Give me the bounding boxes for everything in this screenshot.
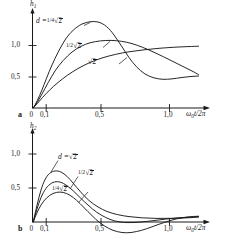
panel-b-x-axis-title-rest: t/2π bbox=[194, 223, 206, 232]
chart-panel-b: h2 1,0 0,5 0 0,1 0,5 1,0 ω0t/2π b d =√2 … bbox=[0, 122, 237, 244]
panel-b-curve-label-3-fraction: 1/4 bbox=[52, 185, 59, 191]
panel-b-y-axis-title-subscript: 2 bbox=[34, 125, 37, 131]
panel-a-curve-label-2: 1/2√2 bbox=[66, 42, 82, 50]
panel-a-ytick-label-05: 0,5 bbox=[11, 74, 20, 81]
panel-b-letter: b bbox=[18, 225, 22, 233]
panel-b-curve-label-2: 1/2√2 bbox=[78, 169, 94, 177]
panel-a-y-axis-title-subscript: 1 bbox=[34, 3, 37, 9]
panel-b-x-axis-title: ω0t/2π bbox=[186, 224, 205, 233]
panel-b-curve-label-3: 1/4√2 bbox=[52, 185, 68, 193]
panel-b-xtick-label-10: 1,0 bbox=[164, 226, 173, 233]
panel-a-curve-label-1-radical: √2 bbox=[54, 17, 63, 25]
panel-a-xtick-label-05: 0,5 bbox=[95, 112, 104, 119]
panel-a-curve-label-2-fraction: 1/2 bbox=[66, 42, 73, 48]
panel-a-curve-half-sqrt2 bbox=[33, 40, 198, 108]
panel-a-curve-label-1-prefix: d = bbox=[36, 16, 47, 25]
panel-b-curve-label-1-prefix: d = bbox=[58, 152, 69, 161]
panel-a-leader-3 bbox=[119, 58, 127, 65]
panel-b-curve-label-3-radical: √2 bbox=[59, 185, 68, 193]
panel-b-curve-sqrt2 bbox=[33, 171, 198, 222]
panel-a-x-axis-title: ω0t/2π bbox=[186, 110, 205, 119]
panel-b-curve-label-1-radical: √2 bbox=[69, 153, 78, 161]
panel-b-xtick-label-01: 0,1 bbox=[40, 226, 49, 233]
panel-b-curve-label-1: d =√2 bbox=[58, 153, 78, 161]
panel-a-curve-label-3-radical: √2 bbox=[88, 58, 97, 66]
panel-a-curve-label-1: d =1/4√2 bbox=[36, 17, 63, 25]
panel-b-xtick-label-05: 0,5 bbox=[95, 226, 104, 233]
panel-b-xtick-label-0: 0 bbox=[30, 226, 34, 233]
chart-panel-a: h1 1,0 0,5 0 0,1 0,5 1,0 ω0t/2π a d =1/4… bbox=[0, 0, 237, 122]
panel-a-curve-d-quarter-sqrt2 bbox=[33, 22, 198, 108]
panel-b-ytick-label-1: 1,0 bbox=[11, 151, 20, 158]
panel-a-leader-2 bbox=[103, 42, 110, 48]
panel-b-curve-label-2-fraction: 1/2 bbox=[78, 169, 85, 175]
panel-b-curve-quarter-sqrt2 bbox=[33, 192, 198, 233]
panel-a-curve-label-2-radical: √2 bbox=[73, 42, 82, 50]
panel-a-x-axis-title-rest: t/2π bbox=[194, 109, 206, 118]
panel-b-y-axis-title: h2 bbox=[30, 122, 36, 131]
panel-a-y-axis-title: h1 bbox=[30, 0, 36, 9]
panel-a-xtick-label-10: 1,0 bbox=[164, 112, 173, 119]
panel-b-leader-1 bbox=[51, 161, 58, 173]
panel-b-ytick-label-05: 0,5 bbox=[11, 185, 20, 192]
panel-a-curve-label-1-fraction: 1/4 bbox=[47, 17, 54, 23]
panel-a-curve-sqrt2 bbox=[33, 46, 198, 108]
panel-a-letter: a bbox=[18, 111, 22, 119]
panel-a-curve-label-3: √2 bbox=[88, 58, 97, 66]
panel-b-curve-label-2-radical: √2 bbox=[85, 169, 94, 177]
panel-a-ytick-label-1: 1,0 bbox=[11, 42, 20, 49]
panel-a-xtick-label-0: 0 bbox=[30, 112, 34, 119]
panel-a-xtick-label-01: 0,1 bbox=[40, 112, 49, 119]
figure-container: h1 1,0 0,5 0 0,1 0,5 1,0 ω0t/2π a d =1/4… bbox=[0, 0, 237, 244]
